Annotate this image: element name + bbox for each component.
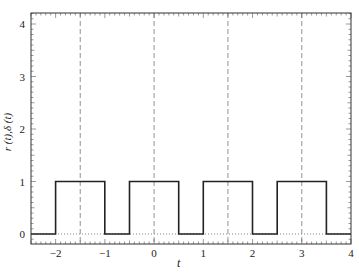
y-tick-label: 1 (20, 176, 26, 188)
x-tick-label: 1 (201, 247, 207, 259)
plot-frame (31, 13, 351, 244)
axis-ticks (31, 13, 351, 244)
y-tick-label: 0 (20, 228, 26, 240)
x-tick-label: 4 (348, 247, 354, 259)
y-axis-label: r (t),δ (t) (1, 112, 14, 151)
x-tick-label: −1 (99, 247, 111, 259)
chart-canvas: −2−10123401234 t r (t),δ (t) (0, 0, 359, 274)
y-tick-label: 3 (20, 71, 26, 83)
x-tick-label: 0 (151, 247, 157, 259)
x-tick-label: 2 (250, 247, 256, 259)
y-tick-label: 2 (20, 123, 26, 135)
x-axis-label: t (177, 256, 181, 270)
pulse-train-line (31, 182, 351, 235)
impulse-dashed-lines (80, 13, 302, 244)
x-tick-label: −2 (50, 247, 62, 259)
y-tick-label: 4 (20, 18, 26, 30)
x-tick-label: 3 (299, 247, 305, 259)
tick-labels: −2−10123401234 (20, 18, 355, 259)
